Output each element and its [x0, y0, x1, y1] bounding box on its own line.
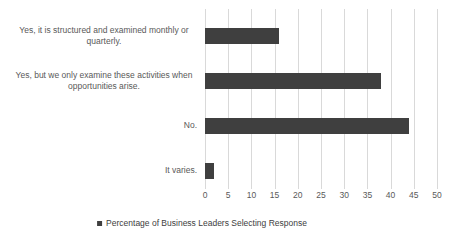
x-tick-label: 40: [386, 190, 395, 200]
axis-tick: [367, 184, 368, 189]
bar: [205, 163, 214, 179]
x-tick-label: 50: [432, 190, 441, 200]
axis-tick: [344, 184, 345, 189]
bar: [205, 73, 381, 89]
category-label-text: Yes, but we only examine these activitie…: [11, 70, 197, 93]
axis-tick: [251, 184, 252, 189]
axis-tick: [414, 184, 415, 189]
category-label: It varies.: [0, 149, 197, 194]
axis-tick: [298, 184, 299, 189]
legend-square-marker-icon: [97, 221, 102, 226]
x-tick-label: 10: [247, 190, 256, 200]
gridline: [391, 9, 392, 184]
axis-tick: [275, 184, 276, 189]
bar: [205, 28, 279, 44]
legend-label: Percentage of Business Leaders Selecting…: [106, 218, 307, 228]
axis-tick: [391, 184, 392, 189]
gridline: [321, 9, 322, 184]
x-tick-label: 45: [409, 190, 418, 200]
category-label: Yes, it is structured and examined month…: [0, 14, 197, 59]
plot-area: [205, 9, 437, 184]
axis-tick: [228, 184, 229, 189]
survey-bar-chart: Yes, it is structured and examined month…: [0, 0, 464, 241]
axis-tick: [437, 184, 438, 189]
x-tick-label: 35: [363, 190, 372, 200]
x-tick-label: 0: [203, 190, 208, 200]
gridline: [298, 9, 299, 184]
category-label-text: It varies.: [165, 165, 197, 176]
gridline: [367, 9, 368, 184]
gridline: [437, 9, 438, 184]
x-tick-label: 30: [339, 190, 348, 200]
x-tick-label: 5: [226, 190, 231, 200]
legend: Percentage of Business Leaders Selecting…: [97, 218, 307, 228]
axis-tick: [205, 184, 206, 189]
category-label: No.: [0, 104, 197, 149]
bar: [205, 118, 409, 134]
x-tick-label: 25: [316, 190, 325, 200]
category-label-text: Yes, it is structured and examined month…: [11, 25, 197, 48]
x-tick-label: 20: [293, 190, 302, 200]
axis-tick: [321, 184, 322, 189]
x-tick-label: 15: [270, 190, 279, 200]
gridline: [344, 9, 345, 184]
category-label: Yes, but we only examine these activitie…: [0, 59, 197, 104]
gridline: [414, 9, 415, 184]
category-label-text: No.: [184, 120, 197, 131]
